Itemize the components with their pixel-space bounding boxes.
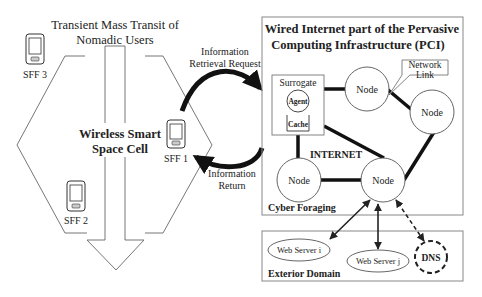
web-server-j: Web Server j — [347, 250, 409, 272]
node-bottom-left: Node — [277, 158, 321, 202]
pci-title-line1: Wired Internet part of the Pervasive — [265, 22, 460, 36]
svg-text:Surrogate: Surrogate — [280, 78, 317, 88]
node-top: Node — [345, 67, 389, 111]
device-label-sff3: SFF 3 — [23, 69, 47, 80]
node-bottom-center: Node — [361, 158, 405, 202]
request-arrow — [182, 71, 260, 111]
cyber-foraging-label: Cyber Foraging — [268, 202, 336, 213]
device-label-sff1: SFF 1 — [164, 153, 188, 164]
svg-text:Network: Network — [408, 60, 441, 70]
cell-label-line1: Wireless Smart — [79, 127, 162, 141]
dns-server: DNS — [415, 241, 447, 273]
return-label-line1: Information — [208, 168, 256, 179]
pci-diagram: Transient Mass Transit of Nomadic Users … — [0, 0, 482, 297]
transit-title-line2: Nomadic Users — [76, 33, 154, 47]
pda-icon — [67, 181, 85, 211]
svg-text:DNS: DNS — [421, 253, 440, 263]
svg-text:Node: Node — [288, 175, 310, 186]
pda-icon — [26, 34, 44, 64]
transit-down-arrow — [87, 46, 144, 270]
svg-text:Node: Node — [356, 84, 378, 95]
return-arrow — [196, 148, 262, 167]
pci-title-line2: Computing Infrastructure (PCI) — [271, 38, 444, 52]
svg-text:Link: Link — [416, 70, 434, 80]
surrogate-box: Surrogate Agent Cache — [272, 75, 324, 135]
web-server-i: Web Server i — [268, 239, 330, 261]
svg-text:Node: Node — [421, 107, 443, 118]
node-right: Node — [410, 90, 454, 134]
svg-text:Web Server i: Web Server i — [277, 245, 322, 255]
svg-text:Node: Node — [372, 175, 394, 186]
request-label-line1: Information — [201, 46, 249, 57]
exterior-connections — [330, 200, 424, 249]
request-label-line2: Retrieval Request — [189, 58, 261, 69]
exterior-domain-label: Exterior Domain — [268, 268, 341, 279]
network-link-callout: Network Link — [389, 60, 448, 95]
cell-label-line2: Space Cell — [92, 142, 148, 156]
device-label-sff2: SFF 2 — [64, 215, 88, 226]
agent-label: Agent — [288, 97, 308, 106]
internet-label: INTERNET — [310, 149, 363, 160]
pda-icon — [167, 120, 185, 148]
transit-title-line1: Transient Mass Transit of — [51, 18, 180, 32]
svg-text:Web Server j: Web Server j — [356, 256, 400, 266]
cache-label: Cache — [288, 120, 309, 129]
return-label-line2: Return — [218, 180, 245, 191]
